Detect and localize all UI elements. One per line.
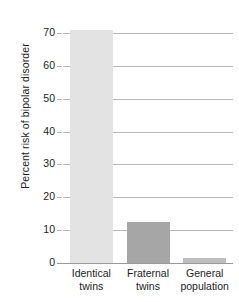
y-axis-tick-label: 0 <box>29 257 55 268</box>
y-axis-tick-label: 60 <box>29 60 55 71</box>
y-axis-tick-mark <box>57 164 62 165</box>
bar-chart-figure: Percent risk of bipolar disorder 0102030… <box>0 0 239 302</box>
y-axis-tick-label: 50 <box>29 93 55 104</box>
x-axis-tick-label-line: Identical <box>72 267 111 279</box>
plot-area <box>63 20 233 263</box>
y-axis-tick-mark <box>57 132 62 133</box>
x-axis-line <box>57 263 233 264</box>
y-axis-tick-labels: 010203040506070 <box>27 20 55 263</box>
y-axis-tick-label: 40 <box>29 126 55 137</box>
x-axis-tick-label-line: General <box>186 267 223 279</box>
x-axis-tick-label-line: Fraternal <box>127 267 169 279</box>
y-axis-tick-mark <box>57 230 62 231</box>
x-axis-tick-label-line: population <box>170 280 239 293</box>
x-axis-tick-labels: IdenticaltwinsFraternaltwinsGeneralpopul… <box>63 267 233 301</box>
y-axis-tick-label: 30 <box>29 158 55 169</box>
y-axis-tick-mark <box>57 197 62 198</box>
y-axis-tick-mark <box>57 33 62 34</box>
bar <box>70 30 113 263</box>
y-axis-tick-mark <box>57 99 62 100</box>
y-axis-tick-mark <box>57 66 62 67</box>
x-axis-tick-label: Generalpopulation <box>170 267 239 292</box>
y-axis-tick-label: 20 <box>29 191 55 202</box>
bar <box>127 222 170 263</box>
y-axis-tick-label: 10 <box>29 224 55 235</box>
y-axis-tick-label: 70 <box>29 27 55 38</box>
